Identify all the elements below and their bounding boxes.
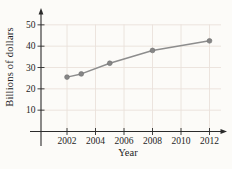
y-tick-label: 10	[26, 105, 36, 115]
y-tick-label: 20	[26, 84, 36, 94]
x-tick-label: 2012	[200, 136, 219, 146]
x-tick-label: 2006	[115, 136, 134, 146]
data-point	[150, 48, 155, 53]
y-axis-arrow-icon	[39, 8, 44, 15]
data-point	[65, 75, 70, 80]
x-axis-arrow-icon	[221, 129, 228, 134]
data-point	[107, 61, 112, 66]
data-point	[79, 72, 84, 77]
line-chart-figure: 1020304050200220042006200820102012 Billi…	[0, 0, 232, 169]
x-tick-label: 2002	[58, 136, 77, 146]
line-chart: 1020304050200220042006200820102012	[0, 0, 232, 169]
y-tick-label: 50	[26, 20, 36, 30]
x-tick-label: 2004	[86, 136, 105, 146]
data-point	[207, 38, 212, 43]
x-tick-label: 2008	[143, 136, 162, 146]
y-tick-label: 40	[26, 41, 36, 51]
y-tick-label: 30	[26, 63, 36, 73]
x-tick-label: 2010	[172, 136, 191, 146]
